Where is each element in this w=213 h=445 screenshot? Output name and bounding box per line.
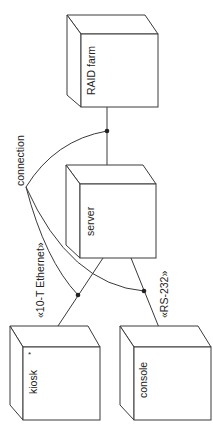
junction-dot-raid [105, 129, 110, 134]
node-label-raid: RAID farm [85, 46, 97, 95]
node-raid-farm[interactable]: RAID farm [67, 15, 158, 107]
junction-dot-console [142, 289, 147, 294]
stereotype-rs232: «RS-232» [158, 271, 170, 318]
node-kiosk[interactable]: kiosk * [10, 326, 100, 420]
node-label-kiosk: kiosk [27, 369, 39, 394]
node-server[interactable]: server [66, 165, 156, 258]
node-label-server: server [84, 206, 96, 236]
connection-label: connection [14, 135, 26, 186]
multiplicity-kiosk: * [28, 350, 31, 359]
deployment-diagram: RAID farm server «10-T Ethernet» «RS-232… [0, 0, 213, 445]
junction-dot-kiosk [76, 293, 81, 298]
node-console[interactable]: console [120, 326, 211, 420]
node-label-console: console [137, 362, 149, 398]
stereotype-ethernet: «10-T Ethernet» [34, 242, 46, 318]
